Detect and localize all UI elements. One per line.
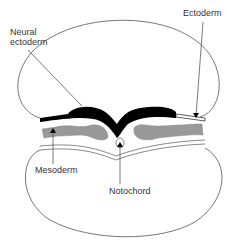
ectoderm-strip — [176, 114, 205, 121]
label-neural-ectoderm: Neural ectoderm — [10, 27, 48, 47]
label-neural-line1: Neural — [10, 27, 48, 37]
label-ectoderm: Ectoderm — [183, 8, 222, 18]
neural-ectoderm-pointer — [28, 50, 82, 106]
label-notochord: Notochord — [109, 186, 151, 196]
label-mesoderm: Mesoderm — [35, 165, 78, 175]
upper-outline — [18, 20, 219, 118]
label-neural-line2: ectoderm — [10, 37, 48, 47]
mesoderm-right — [134, 124, 203, 140]
ectoderm-pointer — [196, 22, 203, 116]
